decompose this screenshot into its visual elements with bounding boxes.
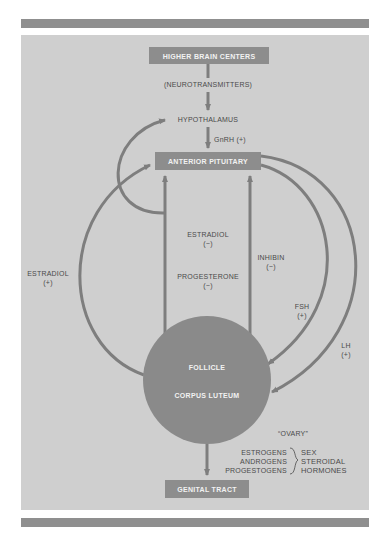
- corpus-luteum-label: CORPUS LUTEUM: [175, 392, 240, 399]
- hpo-axis-diagram: HIGHER BRAIN CENTERS (NEUROTRANSMITTERS)…: [0, 0, 386, 533]
- higher-brain-centers-label: HIGHER BRAIN CENTERS: [163, 53, 256, 60]
- ovary-label: “OVARY”: [278, 430, 308, 437]
- inhibin-name: INHIBIN: [257, 254, 284, 261]
- progesterone-name: PROGESTERONE: [177, 273, 239, 280]
- fsh-name: FSH: [295, 303, 310, 310]
- group-hormones: HORMONES: [301, 466, 347, 475]
- hormone-androgens: ANDROGENS: [240, 458, 287, 465]
- hormones-brace: [290, 448, 298, 474]
- anterior-pituitary-label: ANTERIOR PITUITARY: [168, 158, 248, 165]
- genital-tract-label: GENITAL TRACT: [177, 486, 237, 493]
- group-sex: SEX: [301, 448, 317, 457]
- inhibin-sign: (−): [266, 263, 275, 271]
- gnrh-label: GnRH (+): [214, 136, 246, 144]
- lh-name: LH: [341, 342, 350, 349]
- group-steroidal: STEROIDAL: [301, 457, 345, 466]
- higher-brain-centers-node: HIGHER BRAIN CENTERS: [149, 47, 269, 64]
- estradiol-neg-name: ESTRADIOL: [187, 231, 228, 238]
- estradiol-pos-name: ESTRADIOL: [27, 270, 68, 277]
- ovary-circle-node: FOLLICLE CORPUS LUTEUM: [143, 316, 271, 444]
- estradiol-neg-sign: (−): [203, 240, 212, 248]
- anterior-pituitary-node: ANTERIOR PITUITARY: [155, 152, 261, 170]
- hormone-estrogens: ESTROGENS: [241, 449, 287, 456]
- hormone-progestogens: PROGESTOGENS: [225, 467, 287, 474]
- neurotransmitters-label: (NEUROTRANSMITTERS): [164, 81, 252, 89]
- estradiol-positive-arrow: [80, 165, 150, 375]
- lh-sign: (+): [341, 351, 350, 359]
- follicle-label: FOLLICLE: [189, 364, 226, 371]
- hypothalamus-label: HYPOTHALAMUS: [178, 116, 238, 123]
- progesterone-sign: (−): [203, 282, 212, 290]
- genital-tract-node: GENITAL TRACT: [165, 480, 249, 498]
- estradiol-pos-sign: (+): [43, 279, 52, 287]
- fsh-sign: (+): [297, 312, 306, 320]
